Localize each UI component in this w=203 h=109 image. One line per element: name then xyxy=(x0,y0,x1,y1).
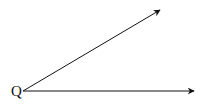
vertex-label: Q xyxy=(11,84,22,99)
upper-ray xyxy=(23,10,160,91)
angle-diagram xyxy=(0,0,203,109)
